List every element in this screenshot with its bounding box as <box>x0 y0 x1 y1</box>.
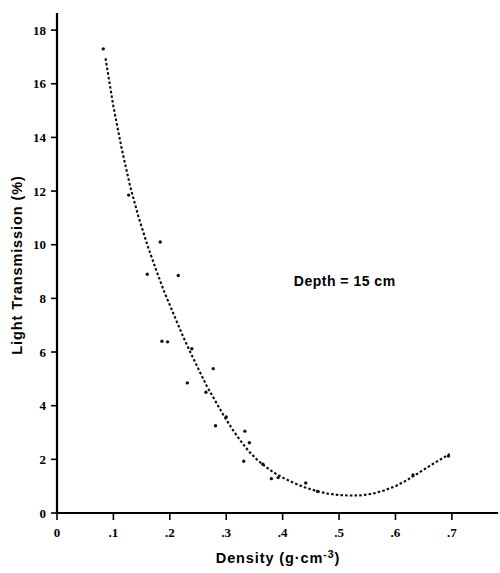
data-point <box>177 274 180 277</box>
data-point <box>214 424 217 427</box>
data-point <box>261 462 264 465</box>
data-point <box>248 441 251 444</box>
data-point <box>146 273 149 276</box>
chart-annotation: Depth = 15 cm <box>294 273 396 289</box>
data-point <box>225 415 228 418</box>
y-axis-title: Light Transmission (%) <box>9 175 25 354</box>
y-tick-label: 16 <box>33 76 47 91</box>
data-point <box>447 454 450 457</box>
data-point <box>270 477 273 480</box>
data-point <box>243 429 246 432</box>
y-tick-label: 8 <box>40 291 47 306</box>
data-point <box>186 381 189 384</box>
x-tick-label: .5 <box>334 525 344 540</box>
x-tick-label: .3 <box>221 525 231 540</box>
y-tick-label: 10 <box>33 237 46 252</box>
x-tick-label: .6 <box>391 525 401 540</box>
chart-svg: 024681012141618 0.1.2.3.4.5.6.7 Depth = … <box>0 0 500 573</box>
data-point <box>242 460 245 463</box>
data-point <box>276 476 279 479</box>
data-point <box>212 367 215 370</box>
annotation-layer: Depth = 15 cm <box>294 273 396 289</box>
y-tick-label: 6 <box>40 345 47 360</box>
y-tick-label: 14 <box>33 130 47 145</box>
data-point <box>316 490 319 493</box>
chart-background <box>0 0 500 573</box>
chart-figure: 024681012141618 0.1.2.3.4.5.6.7 Depth = … <box>0 0 500 573</box>
data-point <box>204 391 207 394</box>
y-tick-label: 0 <box>40 506 47 521</box>
data-point <box>127 193 130 196</box>
data-point <box>102 47 105 50</box>
y-tick-label: 18 <box>33 23 47 38</box>
data-point <box>304 481 307 484</box>
data-point <box>411 473 414 476</box>
data-point <box>166 340 169 343</box>
x-axis-title: Density (g·cm-3) <box>216 548 340 566</box>
y-tick-label: 4 <box>40 398 47 413</box>
data-point <box>159 240 162 243</box>
data-point <box>190 347 193 350</box>
y-tick-label: 2 <box>40 452 47 467</box>
data-point <box>160 340 163 343</box>
y-tick-label: 12 <box>33 184 46 199</box>
x-tick-label: .2 <box>165 525 175 540</box>
x-tick-label: .1 <box>109 525 119 540</box>
x-tick-label: .4 <box>278 525 288 540</box>
x-tick-label: .7 <box>447 525 457 540</box>
x-tick-label: 0 <box>54 525 61 540</box>
